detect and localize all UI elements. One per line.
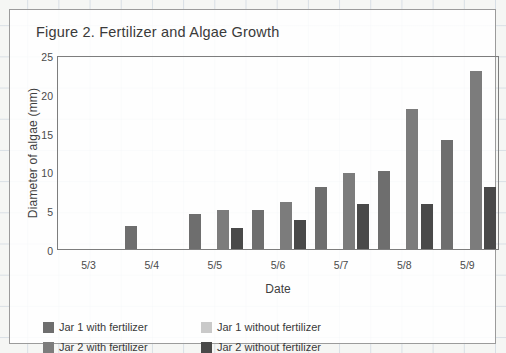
bar xyxy=(252,210,264,249)
bar xyxy=(231,228,243,249)
bar xyxy=(406,109,418,249)
legend-item: Jar 2 with fertilizer xyxy=(43,341,195,353)
bar xyxy=(470,71,482,249)
x-axis-tick: 5/4 xyxy=(144,259,159,271)
x-axis-tick: 5/5 xyxy=(208,259,223,271)
x-axis-label: Date xyxy=(57,282,499,296)
legend-swatch-icon xyxy=(43,342,54,353)
x-axis-tick: 5/6 xyxy=(271,259,286,271)
x-axis-tick: 5/9 xyxy=(460,259,475,271)
x-axis-tick: 5/7 xyxy=(334,259,349,271)
y-axis-tick: 5 xyxy=(47,206,53,218)
bar xyxy=(441,140,453,249)
y-axis-tick: 0 xyxy=(47,245,53,257)
y-axis-tick: 25 xyxy=(41,51,53,63)
bar xyxy=(217,210,229,249)
legend: Jar 1 with fertilizerJar 1 without ferti… xyxy=(43,317,361,353)
legend-label: Jar 1 without fertilizer xyxy=(217,321,321,333)
legend-swatch-icon xyxy=(201,342,212,353)
y-axis-tick: 10 xyxy=(41,167,53,179)
bar xyxy=(357,204,369,249)
legend-label: Jar 1 with fertilizer xyxy=(59,321,148,333)
bar xyxy=(378,171,390,249)
y-axis-tick: 15 xyxy=(41,129,53,141)
y-axis-tick: 20 xyxy=(41,90,53,102)
y-axis-label: Diameter of algae (mm) xyxy=(24,56,42,250)
legend-label: Jar 2 without fertilizer xyxy=(217,341,321,353)
page-title: Figure 2. Fertilizer and Algae Growth xyxy=(36,24,280,40)
y-axis-label-text: Diameter of algae (mm) xyxy=(26,88,40,218)
legend-item: Jar 1 with fertilizer xyxy=(43,321,195,333)
x-axis-tick: 5/3 xyxy=(81,259,96,271)
bar xyxy=(421,204,433,249)
bar xyxy=(343,173,355,249)
figure-card: Figure 2. Fertilizer and Algae Growth Di… xyxy=(9,9,496,344)
legend-item: Jar 2 without fertilizer xyxy=(201,341,361,353)
bar xyxy=(484,187,496,249)
bar xyxy=(315,187,327,249)
legend-item: Jar 1 without fertilizer xyxy=(201,321,361,333)
bar xyxy=(189,214,201,249)
plot-area: 0510152025 xyxy=(57,56,499,250)
legend-swatch-icon xyxy=(201,322,212,333)
bar xyxy=(125,226,137,249)
legend-label: Jar 2 with fertilizer xyxy=(59,341,148,353)
bar xyxy=(280,202,292,249)
x-axis-tick: 5/8 xyxy=(397,259,412,271)
bar xyxy=(294,220,306,249)
legend-swatch-icon xyxy=(43,322,54,333)
